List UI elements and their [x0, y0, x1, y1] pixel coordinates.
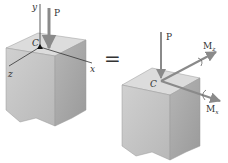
force-p-label-right: P — [166, 32, 172, 42]
y-axis-label: y — [31, 2, 38, 12]
point-c-label-right: C — [150, 79, 157, 89]
z-axis-label: z — [7, 69, 13, 79]
left-block-front — [6, 48, 55, 126]
right-block-front — [122, 85, 170, 160]
left-block — [6, 33, 86, 126]
moment-mx-label: Mx — [206, 104, 219, 115]
equivalent-system-diagram: y P C z x = P C Mz Mx — [0, 0, 228, 163]
moment-mz-label: Mz — [203, 41, 216, 52]
point-c-label: C — [32, 38, 39, 48]
force-p-label: P — [54, 8, 60, 18]
equals-sign: = — [104, 47, 121, 71]
x-axis-label: x — [90, 64, 95, 74]
